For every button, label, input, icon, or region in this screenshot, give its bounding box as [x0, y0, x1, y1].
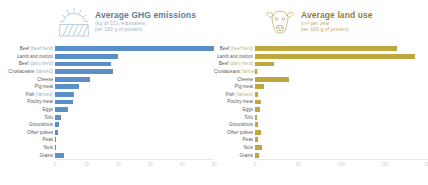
- category-name: Poultry meat: [27, 99, 53, 104]
- axis-tick-label: 200: [424, 162, 428, 167]
- bar-row: Grains: [214, 151, 428, 159]
- category-name: Nuts: [244, 145, 253, 150]
- bar-track: [55, 53, 214, 61]
- ghg-axis-baseline: [55, 159, 214, 160]
- category-name: Cheese: [37, 77, 53, 82]
- bar-row-label: Groundnuts: [214, 122, 255, 127]
- bar-row: Cheese: [0, 75, 214, 83]
- bar-track: [55, 136, 214, 144]
- bar-track: [55, 83, 214, 91]
- bar: [255, 54, 415, 59]
- bar-row-label: Tofu: [0, 115, 55, 120]
- bar: [55, 84, 79, 89]
- ghg-emissions-panel: Average GHG emissions (kg of CO₂ equival…: [0, 0, 214, 185]
- bar-row: Poultry meat: [0, 98, 214, 106]
- ghg-panel-header: Average GHG emissions (kg of CO₂ equival…: [0, 0, 214, 37]
- bar-row: Cheese: [214, 75, 428, 83]
- category-name: Pig meat: [235, 84, 253, 89]
- category-name: Lamb and mutton: [217, 54, 253, 59]
- bar-row: Pig meat: [0, 83, 214, 91]
- bar-track: [255, 53, 428, 61]
- category-qualifier: (beef herd): [231, 46, 253, 51]
- category-name: Eggs: [243, 107, 253, 112]
- bar-row-label: Eggs: [214, 107, 255, 112]
- bar-row: Peas: [214, 136, 428, 144]
- bar-track: [255, 151, 428, 159]
- bar-row-label: Tofu: [214, 115, 255, 120]
- bar-track: [255, 136, 428, 144]
- bar-track: [55, 91, 214, 99]
- ghg-panel-subtitle-line2: per 100 g of protein): [95, 26, 196, 32]
- bar-track: [255, 129, 428, 137]
- bar-track: [55, 129, 214, 137]
- land-use-panel: Average land use (m² per year per 100 g …: [214, 0, 428, 185]
- bar-row-label: Crustaceans (farmed): [0, 69, 55, 74]
- bar-row-label: Peas: [0, 137, 55, 142]
- axis-tick-label: 100: [338, 162, 346, 167]
- bar-row-label: Nuts: [214, 145, 255, 150]
- ghg-bar-rows: Beef (beef herd)Lamb and muttonBeef (dai…: [0, 45, 214, 159]
- bar-row: Fish (farmed): [214, 91, 428, 99]
- category-name: Fish: [226, 92, 236, 97]
- bar: [255, 92, 258, 97]
- bar: [255, 122, 258, 127]
- axis-tick-label: 50: [296, 162, 301, 167]
- ghg-axis-wrap: 01020304050: [55, 159, 214, 173]
- bar: [55, 137, 56, 142]
- bar: [255, 77, 289, 82]
- category-name: Lamb and mutton: [17, 54, 53, 59]
- bar-row: Beef (dairy herd): [214, 60, 428, 68]
- bar-row-label: Poultry meat: [214, 99, 255, 104]
- land-use-bar-rows: Beef (beef herd)Lamb and muttonBeef (dai…: [214, 45, 428, 159]
- bar-track: [255, 98, 428, 106]
- bar-row: Nuts: [0, 144, 214, 152]
- bar-track: [255, 68, 428, 76]
- bar-track: [255, 144, 428, 152]
- axis-tick-label: 10: [84, 162, 89, 167]
- bar-row: Lamb and mutton: [0, 53, 214, 61]
- category-qualifier: (farmed): [236, 92, 253, 97]
- bar: [255, 153, 259, 158]
- category-name: Tofu: [244, 115, 253, 120]
- category-name: Nuts: [44, 145, 53, 150]
- bar-row: Crustaceans (farmed): [214, 68, 428, 76]
- category-name: Cheese: [237, 77, 253, 82]
- category-name: Crustaceans: [214, 69, 241, 74]
- category-name: Eggs: [43, 107, 53, 112]
- food-footprint-chart-figure: Average GHG emissions (kg of CO₂ equival…: [0, 0, 428, 185]
- bar-row: Groundnuts: [214, 121, 428, 129]
- bar-row: Poultry meat: [214, 98, 428, 106]
- land-use-axis-wrap: 050100150200: [255, 159, 428, 173]
- bar-row-label: Lamb and mutton: [214, 54, 255, 59]
- bar-row: Beef (beef herd): [0, 45, 214, 53]
- bar-row-label: Cheese: [214, 77, 255, 82]
- category-name: Peas: [43, 137, 53, 142]
- category-name: Fish: [26, 92, 36, 97]
- category-name: Peas: [243, 137, 253, 142]
- category-name: Groundnuts: [29, 122, 53, 127]
- category-name: Beef: [220, 46, 231, 51]
- category-qualifier: (dairy herd): [30, 61, 54, 66]
- bar: [255, 145, 262, 150]
- bar-row: Peas: [0, 136, 214, 144]
- bar-row-label: Beef (beef herd): [0, 46, 55, 51]
- land-use-panel-header: Average land use (m² per year per 100 g …: [214, 0, 428, 37]
- bar-track: [255, 75, 428, 83]
- bar-track: [55, 68, 214, 76]
- bar-row: Pig meat: [214, 83, 428, 91]
- bar-row-label: Pig meat: [214, 84, 255, 89]
- land-use-axis-baseline: [255, 159, 428, 160]
- bar-track: [55, 75, 214, 83]
- axis-tick-label: 150: [381, 162, 389, 167]
- axis-tick-label: 0: [54, 162, 57, 167]
- category-name: Grains: [239, 153, 253, 158]
- bar-row-label: Eggs: [0, 107, 55, 112]
- bar-row: Eggs: [0, 106, 214, 114]
- ghg-chart-body: Beef (beef herd)Lamb and muttonBeef (dai…: [0, 45, 214, 185]
- bar-track: [255, 60, 428, 68]
- land-use-panel-title: Average land use: [301, 10, 373, 20]
- bar: [255, 62, 274, 67]
- bar-row-label: Other pulses: [214, 130, 255, 135]
- category-name: Pig meat: [35, 84, 53, 89]
- bar: [55, 54, 118, 59]
